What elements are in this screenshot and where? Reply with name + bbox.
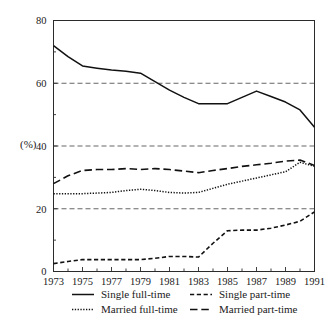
chart-figure: 020406080 197319751977197919811983198519…	[0, 0, 332, 331]
legend-label: Married full-time	[101, 303, 178, 315]
gridlines-group	[54, 83, 315, 209]
series-line-single-full-time	[54, 46, 315, 128]
y-axis-tick-labels: 020406080	[36, 15, 47, 277]
chart-legend: Single full-timeSingle part-timeMarried …	[72, 288, 298, 315]
x-tick-label: 1985	[217, 276, 238, 287]
tickmarks-group	[54, 52, 315, 272]
y-tick-label: 20	[36, 204, 47, 215]
x-tick-label: 1983	[188, 276, 209, 287]
series-line-married-part-time	[54, 160, 315, 184]
y-tick-label: 80	[36, 15, 47, 26]
x-tick-label: 1981	[159, 276, 180, 287]
y-tick-label: 40	[36, 141, 47, 152]
data-series-group	[54, 46, 315, 264]
x-tick-label: 1987	[246, 276, 267, 287]
x-tick-label: 1975	[72, 276, 93, 287]
line-chart: 020406080 197319751977197919811983198519…	[0, 0, 332, 331]
y-axis-title: (%)	[20, 138, 37, 151]
x-tick-label: 1989	[275, 276, 296, 287]
x-tick-label: 1977	[101, 276, 122, 287]
page-header-remnant	[18, 0, 318, 3]
x-tick-label: 1991	[304, 276, 325, 287]
legend-label: Single part-time	[219, 288, 290, 300]
x-tick-label: 1973	[43, 276, 64, 287]
series-line-single-part-time	[54, 212, 315, 264]
x-tick-label: 1979	[130, 276, 151, 287]
legend-label: Married part-time	[219, 303, 298, 315]
legend-label: Single full-time	[101, 288, 170, 300]
y-tick-label: 60	[36, 78, 47, 89]
x-axis-tick-labels: 1973197519771979198119831985198719891991	[43, 276, 325, 287]
series-line-married-full-time	[54, 162, 315, 193]
